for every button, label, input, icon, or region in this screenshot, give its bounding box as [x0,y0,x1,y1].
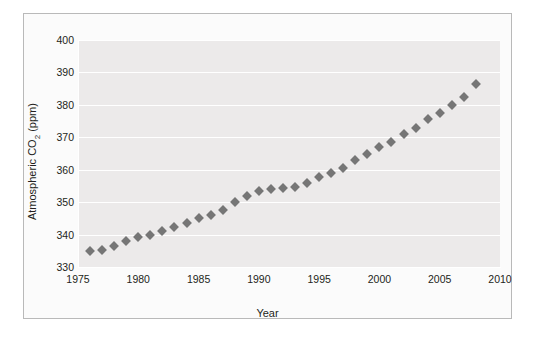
x-tick-label: 1990 [229,273,289,285]
data-point-marker [145,230,155,240]
data-point-marker [133,232,143,242]
y-tick-label: 360 [14,165,74,175]
data-point-marker [362,149,372,159]
data-point-marker [194,213,204,223]
data-point-marker [423,114,433,124]
data-point-marker [374,142,384,152]
y-axis-title: Atmospheric CO2 (ppm) [26,62,41,262]
data-markers [78,40,500,267]
x-tick-label: 1980 [108,273,168,285]
data-point-marker [109,241,119,251]
y-tick-label: 380 [14,100,74,110]
data-point-marker [459,92,469,102]
y-tick-label: 340 [14,230,74,240]
data-point-marker [435,108,445,118]
x-tick-label: 1975 [48,273,108,285]
y-axis-line [78,40,79,268]
data-point-marker [242,191,252,201]
data-point-marker [182,218,192,228]
data-point-marker [411,123,421,133]
y-axis-title-subscript: 2 [33,135,42,139]
data-point-marker [314,172,324,182]
y-tick-label: 400 [14,35,74,45]
data-point-marker [254,186,264,196]
data-point-marker [387,137,397,147]
data-point-marker [447,100,457,110]
data-point-marker [471,79,481,89]
y-tick-label: 330 [14,262,74,272]
y-axis-title-text: Atmospheric CO [26,139,38,220]
data-point-marker [302,178,312,188]
x-tick-label: 1995 [289,273,349,285]
x-tick-label: 2000 [349,273,409,285]
plot-area [78,40,500,267]
data-point-marker [230,197,240,207]
y-tick-label: 370 [14,132,74,142]
data-point-marker [121,236,131,246]
data-point-marker [218,205,228,215]
y-tick-label: 350 [14,197,74,207]
data-point-marker [170,222,180,232]
data-point-marker [350,155,360,165]
data-point-marker [97,245,107,255]
data-point-marker [266,184,276,194]
data-point-marker [338,163,348,173]
data-point-marker [206,210,216,220]
chart-figure: 330340350360370380390400 Atmospheric CO2… [0,0,535,347]
x-axis-line [78,267,501,268]
data-point-marker [326,168,336,178]
y-axis-title-units: (ppm) [26,103,38,135]
x-tick-label: 1985 [169,273,229,285]
y-tick-label: 390 [14,67,74,77]
data-point-marker [399,129,409,139]
data-point-marker [290,182,300,192]
x-tick-label: 2005 [410,273,470,285]
data-point-marker [85,246,95,256]
data-point-marker [278,183,288,193]
x-tick-label: 2010 [470,273,530,285]
data-point-marker [157,226,167,236]
x-axis-title: Year [0,307,535,319]
